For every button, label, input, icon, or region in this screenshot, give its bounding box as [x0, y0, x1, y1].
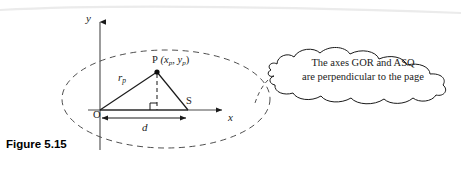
callout-text: The axes GOR and ASQ are perpendicular t… — [283, 56, 443, 84]
callout-tail — [255, 80, 268, 103]
x-axis-label: x — [228, 112, 233, 123]
figure-container: y x O P (xp, yp) rp S d The axes GOR and… — [0, 0, 461, 169]
point-p-name: P — [152, 54, 158, 65]
callout-line-1: The axes GOR and ASQ — [283, 56, 443, 70]
y-axis-label: y — [86, 13, 91, 24]
origin-label: O — [93, 110, 101, 121]
segment-ps — [157, 72, 188, 110]
point-p-marker — [154, 69, 159, 74]
distance-label: d — [142, 122, 148, 133]
callout-line-2: are perpendicular to the page — [283, 70, 443, 84]
scan-artifact-line — [0, 7, 461, 13]
radius-subscript: p — [122, 76, 126, 85]
radius-label: rp — [118, 72, 126, 85]
right-angle-marker — [150, 103, 157, 110]
segment-op — [100, 72, 157, 110]
point-p-coord-mid: , y — [172, 54, 182, 65]
point-p-coord-open: (x — [160, 54, 168, 65]
figure-graphics — [0, 0, 461, 169]
figure-caption: Figure 5.15 — [6, 138, 67, 150]
point-p-label: P (xp, yp) — [152, 55, 189, 67]
point-p-coord-close: ) — [186, 54, 190, 65]
station-label: S — [186, 96, 192, 107]
